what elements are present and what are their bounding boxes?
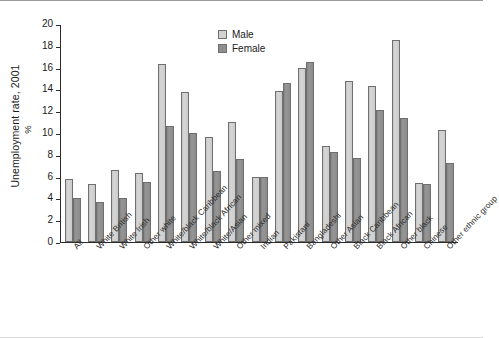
y-axis-tick-mark [56,134,60,135]
bar-group [271,25,294,242]
y-axis-tick-label: 2 [29,214,53,225]
bar-male [88,184,96,242]
bar-male [298,68,306,242]
y-axis-tick-label: 14 [29,83,53,94]
bar-groups [61,25,458,242]
y-axis-tick-label: 6 [29,171,53,182]
y-axis-tick-label: 8 [29,149,53,160]
y-axis-tick-mark [56,69,60,70]
x-axis-category-labels: AllWhite BritishWhite IrishOther whiteWh… [60,245,458,338]
bar-female [213,171,221,242]
y-axis-tick-mark [56,90,60,91]
y-axis-tick-label: 0 [29,236,53,247]
plot-area: 20181614121086420 [60,25,458,243]
bar-female [143,182,151,242]
bar-female [306,62,314,242]
bar-group [84,25,107,242]
y-axis-tick-label: 20 [29,18,53,29]
y-axis-tick-label: 4 [29,192,53,203]
bar-group [341,25,364,242]
bar-group [248,25,271,242]
bar-female [283,83,291,242]
bar-group [411,25,434,242]
bar-group [295,25,318,242]
bar-female [73,198,81,242]
bar-group [435,25,458,242]
bar-male [65,179,73,242]
y-axis-tick-mark [56,243,60,244]
y-axis-tick-label: 12 [29,105,53,116]
y-axis-tick-mark [56,178,60,179]
y-axis-tick-mark [56,47,60,48]
bar-male [345,81,353,242]
y-axis-tick-mark [56,112,60,113]
y-axis-tick-mark [56,199,60,200]
y-axis-tick-mark [56,25,60,26]
bar-male [275,91,283,243]
bar-group [108,25,131,242]
bar-female [260,177,268,242]
y-axis-tick-mark [56,221,60,222]
bar-group [318,25,341,242]
bar-group [154,25,177,242]
bar-group [131,25,154,242]
y-axis-tick-label: 10 [29,127,53,138]
y-axis-tick-label: 18 [29,40,53,51]
bar-group [61,25,84,242]
y-axis-tick-mark [56,156,60,157]
y-axis-tick-label: 16 [29,62,53,73]
bar-male [158,64,166,242]
